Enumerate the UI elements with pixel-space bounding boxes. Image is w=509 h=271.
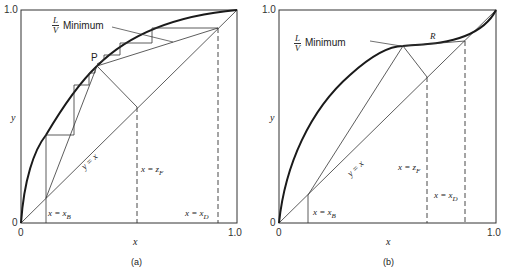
stage-steps-stripping-a: [46, 68, 95, 135]
min-ratio-text-b: Minimum: [305, 38, 346, 48]
y-origin-tick-b: 0: [270, 218, 276, 228]
x-max-tick-b: 1.0: [487, 228, 501, 238]
x-axis-label-b: x: [386, 237, 390, 247]
xb-label-b: x = xB: [313, 208, 336, 220]
zf-label-text-a: x = z: [141, 164, 159, 174]
y-max-tick-b: 1.0: [262, 5, 276, 15]
zf-label-sub-a: F: [159, 169, 163, 177]
x-origin-tick-b: 0: [276, 228, 282, 238]
min-ratio-text-a: Minimum: [63, 21, 104, 31]
pinch-label-a: P: [91, 53, 98, 63]
zf-label-sub-b: F: [416, 167, 420, 175]
xb-label-sub-a: B: [67, 213, 71, 221]
pinch-label-b: R: [430, 32, 436, 41]
xd-label-a: x = xD: [185, 209, 209, 221]
xb-label-text-a: x = x: [48, 208, 67, 218]
xd-label-sub-a: D: [204, 213, 209, 221]
min-ratio-fraction-b: L V: [294, 34, 301, 53]
zf-label-a: x = zF: [141, 165, 163, 177]
xb-label-a: x = xB: [48, 209, 71, 221]
xb-label-sub-b: B: [332, 212, 336, 220]
caption-b: (b): [383, 258, 394, 267]
xd-label-b: x = xD: [434, 191, 458, 203]
y-axis-label-a: y: [11, 113, 15, 123]
xd-label-text-a: x = x: [185, 208, 204, 218]
x-origin-tick-a: 0: [18, 228, 24, 238]
min-ratio-fraction-a: L V: [52, 16, 59, 35]
stripping-line-a: [46, 66, 97, 198]
xb-label-text-b: x = x: [313, 207, 332, 217]
zf-label-b: x = zF: [398, 163, 420, 175]
panel-a: [21, 10, 237, 223]
ratio-denominator-a: V: [52, 26, 59, 35]
y-max-tick-a: 1.0: [4, 5, 18, 15]
caption-a: (a): [131, 258, 142, 267]
x-max-tick-a: 1.0: [228, 228, 242, 238]
xd-label-text-b: x = x: [434, 190, 453, 200]
leader-line-b: [370, 41, 401, 46]
x-axis-label-a: x: [133, 237, 137, 247]
y-axis-label-b: y: [270, 113, 274, 123]
feed-line-a: [97, 66, 137, 107]
leader-line-a: [112, 27, 173, 42]
ratio-denominator-b: V: [294, 44, 301, 53]
y-origin-tick-a: 0: [12, 218, 18, 228]
zf-label-text-b: x = z: [398, 162, 416, 172]
xd-label-sub-b: D: [453, 195, 458, 203]
rectifying-line-b: [403, 41, 465, 46]
feed-line-b: [403, 46, 427, 77]
